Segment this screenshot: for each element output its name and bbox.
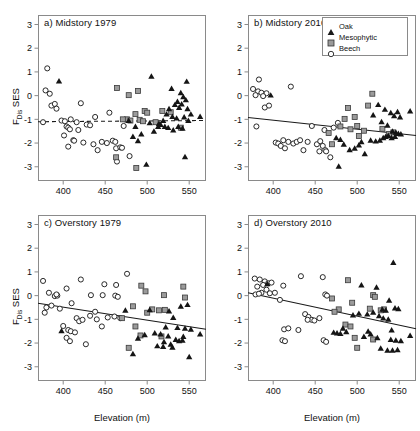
- legend-item-beech: Beech: [327, 43, 402, 53]
- svg-text:-3: -3: [24, 162, 32, 172]
- x-axis-title-right: Elevation (m): [272, 412, 392, 423]
- panel-a-marks: 3210-1-2-3400450500550: [0, 0, 210, 200]
- svg-text:500: 500: [350, 186, 365, 196]
- y-axis-title-bottom: FDis SES: [10, 288, 23, 325]
- svg-text:550: 550: [392, 386, 407, 396]
- svg-text:400: 400: [266, 386, 281, 396]
- legend-item-oak: Oak: [327, 21, 402, 31]
- svg-text:0: 0: [27, 291, 32, 301]
- gray-square-icon: [327, 33, 335, 41]
- legend-label-beech: Beech: [339, 44, 360, 53]
- svg-text:400: 400: [56, 186, 71, 196]
- svg-text:-3: -3: [24, 362, 32, 372]
- svg-text:0: 0: [237, 91, 242, 101]
- svg-text:1: 1: [27, 267, 32, 277]
- panel-c: c) Overstory 1979 3210-1-2-3400450500550: [0, 200, 210, 431]
- svg-text:450: 450: [98, 386, 113, 396]
- svg-text:450: 450: [308, 386, 323, 396]
- svg-text:500: 500: [140, 386, 155, 396]
- svg-text:-1: -1: [24, 315, 32, 325]
- svg-text:-2: -2: [234, 138, 242, 148]
- y-axis-title-text: FDis SES: [10, 88, 21, 125]
- svg-text:550: 550: [392, 186, 407, 196]
- legend-label-mesophytic: Mesophytic: [339, 33, 377, 42]
- svg-text:2: 2: [27, 243, 32, 253]
- svg-text:0: 0: [27, 91, 32, 101]
- filled-triangle-icon: [327, 22, 335, 30]
- y-axis-title-subscript: Dis: [16, 110, 23, 119]
- panel-d: d) Overstory 2010 3210-1-2-3400450500550: [210, 200, 420, 431]
- legend-item-mesophytic: Mesophytic: [327, 32, 402, 42]
- panel-d-marks: 3210-1-2-3400450500550: [210, 200, 420, 431]
- svg-text:450: 450: [98, 186, 113, 196]
- svg-text:-1: -1: [24, 115, 32, 125]
- svg-text:2: 2: [27, 43, 32, 53]
- svg-text:2: 2: [237, 43, 242, 53]
- panel-a: a) Midstory 1979 3210-1-2-3400450500550: [0, 0, 210, 200]
- svg-text:1: 1: [27, 67, 32, 77]
- panel-c-marks: 3210-1-2-3400450500550: [0, 200, 210, 431]
- svg-text:-3: -3: [234, 162, 242, 172]
- svg-text:3: 3: [27, 220, 32, 230]
- svg-text:550: 550: [182, 386, 197, 396]
- svg-text:1: 1: [237, 267, 242, 277]
- svg-text:-1: -1: [234, 115, 242, 125]
- svg-text:0: 0: [237, 291, 242, 301]
- y-axis-title-text-2: FDis SES: [10, 288, 21, 325]
- svg-text:-2: -2: [24, 138, 32, 148]
- svg-text:-2: -2: [24, 338, 32, 348]
- svg-text:400: 400: [56, 386, 71, 396]
- svg-text:1: 1: [237, 67, 242, 77]
- legend-label-oak: Oak: [339, 22, 353, 31]
- svg-text:-2: -2: [234, 338, 242, 348]
- svg-text:-3: -3: [234, 362, 242, 372]
- y-axis-title-subscript-2: Dis: [16, 310, 23, 319]
- svg-text:3: 3: [237, 220, 242, 230]
- x-axis-title-left: Elevation (m): [62, 412, 182, 423]
- svg-text:550: 550: [182, 186, 197, 196]
- y-axis-title-top: FDis SES: [10, 88, 23, 125]
- panel-b: b) Midstory 2010 3210-1-2-3400450500550 …: [210, 0, 420, 200]
- svg-text:500: 500: [350, 386, 365, 396]
- svg-text:-1: -1: [234, 315, 242, 325]
- legend: Oak Mesophytic Beech: [322, 17, 408, 56]
- svg-text:3: 3: [27, 20, 32, 30]
- open-circle-icon: [327, 44, 335, 52]
- svg-text:3: 3: [237, 20, 242, 30]
- svg-text:400: 400: [266, 186, 281, 196]
- figure-root: a) Midstory 1979 3210-1-2-3400450500550 …: [0, 0, 420, 431]
- svg-text:450: 450: [308, 186, 323, 196]
- svg-text:500: 500: [140, 186, 155, 196]
- svg-text:2: 2: [237, 243, 242, 253]
